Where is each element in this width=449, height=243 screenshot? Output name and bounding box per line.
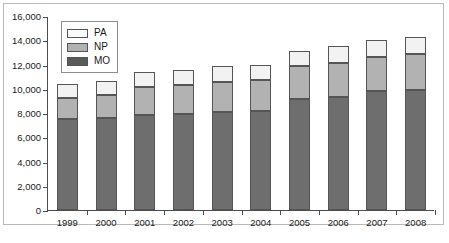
stacked-bar[interactable] [366,40,387,210]
x-axis-tick [203,210,204,215]
y-axis-label: 0 [36,206,41,216]
bar-segment-pa[interactable] [134,72,155,87]
y-axis-tick [43,163,48,164]
legend-swatch-pa [67,29,88,38]
x-axis-label: 2000 [95,218,116,228]
stacked-bar[interactable] [250,65,271,211]
x-axis-tick [319,210,320,215]
y-axis-tick [43,138,48,139]
legend-item-mo: MO [67,54,110,68]
legend-label-np: NP [94,42,108,52]
x-axis-label: 2006 [328,218,349,228]
bar-segment-mo[interactable] [289,99,310,210]
chart-figure: 02,0004,0006,0008,00010,00012,00014,0001… [0,0,449,243]
x-axis-tick [396,210,397,215]
stacked-bar[interactable] [212,66,233,210]
stacked-bar[interactable] [289,51,310,210]
x-axis-label: 2008 [405,218,426,228]
bar-segment-np[interactable] [173,85,194,113]
y-axis-tick [43,187,48,188]
bar-segment-mo[interactable] [250,111,271,210]
y-axis-label: 12,000 [12,61,41,71]
y-axis-label: 2,000 [17,182,41,192]
x-axis-label: 2007 [366,218,387,228]
bar-segment-np[interactable] [96,95,117,118]
bar-segment-mo[interactable] [57,119,78,210]
bar-segment-mo[interactable] [366,91,387,210]
y-axis-label: 4,000 [17,158,41,168]
bar-segment-mo[interactable] [173,114,194,210]
bar-segment-mo[interactable] [212,112,233,210]
bar-segment-pa[interactable] [212,66,233,82]
bar-segment-pa[interactable] [289,51,310,66]
bar-segment-np[interactable] [212,82,233,112]
figure-footnote [5,232,305,241]
bar-segment-np[interactable] [366,57,387,91]
y-axis-tick [43,90,48,91]
x-axis-tick [358,210,359,215]
bar-segment-mo[interactable] [96,118,117,210]
legend-label-mo: MO [94,56,110,66]
bar-segment-mo[interactable] [328,97,349,210]
legend-item-pa: PA [67,26,110,40]
stacked-bar[interactable] [134,72,155,210]
x-axis-label: 1999 [57,218,78,228]
x-axis-tick [242,210,243,215]
bar-segment-pa[interactable] [328,46,349,63]
y-axis-label: 6,000 [17,134,41,144]
chart-legend: PA NP MO [61,21,118,73]
y-axis-tick [43,211,48,212]
x-axis-tick [435,210,436,215]
bar-segment-np[interactable] [289,66,310,99]
y-axis-label: 8,000 [17,109,41,119]
x-axis-label: 2004 [250,218,271,228]
x-axis-tick [164,210,165,215]
x-axis-label: 2005 [289,218,310,228]
x-axis-label: 2003 [212,218,233,228]
x-axis-tick [87,210,88,215]
y-axis-tick [43,114,48,115]
x-axis-tick [280,210,281,215]
y-axis-tick [43,66,48,67]
y-axis-tick [43,17,48,18]
bar-segment-pa[interactable] [405,37,426,55]
bar-segment-mo[interactable] [134,115,155,210]
bar-segment-np[interactable] [405,54,426,90]
bar-segment-mo[interactable] [405,90,426,210]
bar-segment-np[interactable] [250,80,271,111]
stacked-bar[interactable] [57,84,78,210]
stacked-bar[interactable] [96,81,117,210]
legend-item-np: NP [67,40,110,54]
bar-segment-np[interactable] [134,87,155,115]
x-axis-label: 2002 [173,218,194,228]
bar-segment-pa[interactable] [366,40,387,58]
bar-segment-np[interactable] [328,63,349,97]
bar-segment-pa[interactable] [96,81,117,95]
x-axis-tick [125,210,126,215]
stacked-bar[interactable] [405,37,426,210]
bar-segment-pa[interactable] [173,70,194,85]
bar-segment-np[interactable] [57,98,78,119]
legend-swatch-mo [67,57,88,66]
y-axis-tick [43,41,48,42]
y-axis-label: 10,000 [12,85,41,95]
legend-swatch-np [67,43,88,52]
y-axis-label: 16,000 [12,12,41,22]
stacked-bar[interactable] [328,46,349,210]
bar-segment-pa[interactable] [250,65,271,81]
x-axis-label: 2001 [134,218,155,228]
y-axis-label: 14,000 [12,37,41,47]
legend-label-pa: PA [94,28,107,38]
stacked-bar[interactable] [173,70,194,210]
bar-segment-pa[interactable] [57,84,78,98]
